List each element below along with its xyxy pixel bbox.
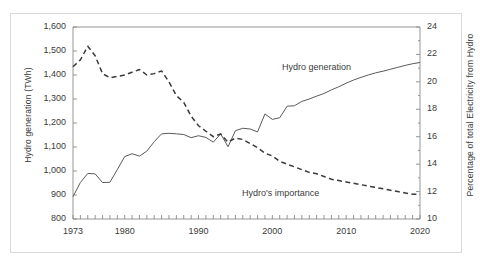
y-tick-label-right: 12: [427, 186, 457, 196]
y-tick-label-left: 1,000: [28, 165, 66, 175]
y-tick-label-left: 800: [28, 213, 66, 223]
y-axis-right-title: Percentage of total Electricity from Hyd…: [465, 25, 475, 205]
y-tick-label-right: 10: [427, 213, 457, 223]
y-tick-label-right: 22: [427, 48, 457, 58]
y-tick-label-right: 14: [427, 158, 457, 168]
y-tick-label-left: 900: [28, 189, 66, 199]
x-tick-label: 1990: [179, 226, 219, 236]
series-line-hydro-generation: [73, 63, 420, 197]
x-tick-label: 2020: [400, 226, 440, 236]
series-line-hydro-importance: [73, 46, 420, 194]
chart-figure: Hydro generation (TWh) Percentage of tot…: [0, 0, 495, 277]
x-axis-ticks: [73, 215, 420, 219]
y-tick-label-left: 1,100: [28, 141, 66, 151]
x-tick-label: 1980: [105, 226, 145, 236]
y-tick-label-right: 18: [427, 103, 457, 113]
x-tick-label: 1973: [53, 226, 93, 236]
y-tick-label-left: 1,200: [28, 117, 66, 127]
y-tick-label-left: 1,300: [28, 93, 66, 103]
y-tick-label-right: 20: [427, 76, 457, 86]
right-axis-ticks: [416, 27, 420, 219]
y-tick-label-right: 24: [427, 21, 457, 31]
y-tick-label-left: 1,500: [28, 45, 66, 55]
y-tick-label-right: 16: [427, 131, 457, 141]
x-tick-label: 2010: [326, 226, 366, 236]
y-tick-label-left: 1,400: [28, 69, 66, 79]
x-tick-label: 2000: [252, 226, 292, 236]
series-label-hydro-generation: Hydro generation: [282, 62, 351, 72]
series-label-hydro-importance: Hydro's importance: [242, 188, 319, 198]
y-tick-label-left: 1,600: [28, 21, 66, 31]
